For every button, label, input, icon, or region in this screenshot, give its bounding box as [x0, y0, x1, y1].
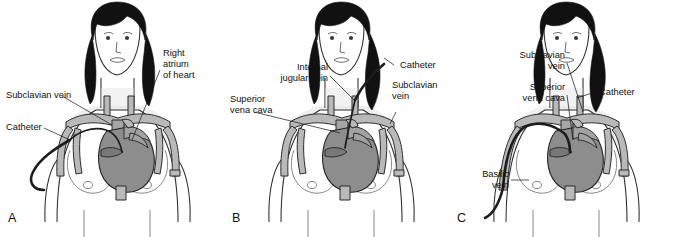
label-subclavian-vein: Subclavian vein [6, 90, 71, 100]
panel-letter-a: A [8, 211, 17, 225]
label-basilic-2: vein [492, 180, 509, 190]
label-basilic-1: Basilic [482, 169, 509, 179]
label-svc-1: Superior [230, 94, 265, 104]
label-subclavian-1: Subclavian [392, 80, 437, 90]
panel-a-subclavian: Subclavian vein Catheter Right atrium of… [0, 0, 225, 237]
label-right-atrium-2: atrium [163, 59, 189, 69]
label-subclavian-2: vein [548, 61, 565, 71]
panel-letter-c: C [457, 211, 466, 225]
label-catheter: Catheter [599, 87, 635, 97]
label-catheter: Catheter [6, 122, 42, 132]
label-catheter: Catheter [400, 60, 436, 70]
label-svc-1: Superior [530, 82, 565, 92]
label-svc-2: vena cava [523, 93, 566, 103]
panel-letter-b: B [232, 211, 240, 225]
label-subclavian-1: Subclavian [520, 50, 565, 60]
figure-central-venous-access: Subclavian vein Catheter Right atrium of… [0, 0, 674, 237]
panel-c-basilic-picc: Subclavian vein Superior vena cava Basil… [449, 0, 674, 237]
label-svc-2: vena cava [230, 105, 273, 115]
label-right-atrium-1: Right [163, 48, 185, 58]
label-internal-jugular-2: jugular vein [279, 73, 328, 83]
label-right-atrium-3: of heart [163, 70, 195, 80]
panel-b-internal-jugular: Internal jugular vein Superior vena cava… [224, 0, 449, 237]
label-subclavian-2: vein [392, 91, 409, 101]
label-internal-jugular-1: Internal [297, 62, 328, 72]
